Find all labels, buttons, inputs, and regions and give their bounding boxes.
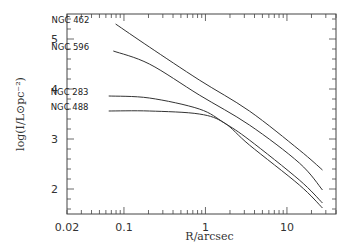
- series-label-ngc-596: NGC 596: [51, 42, 89, 52]
- x-tick-label: 0.02: [55, 221, 80, 234]
- series-label-ngc-462: NGC 462: [52, 15, 90, 25]
- chart-canvas: 0.020.11102345R/arcseclog(I/L⊙pc⁻²)NGC 4…: [0, 0, 352, 249]
- series-line-ngc-596: [113, 51, 322, 190]
- series-line-ngc-488: [109, 111, 323, 208]
- series-line-ngc-462: [116, 24, 323, 170]
- series-line-ngc-283: [109, 96, 323, 203]
- x-axis-label: R/arcsec: [185, 230, 233, 243]
- y-tick-label: 2: [51, 183, 58, 196]
- x-tick-label: 10: [280, 221, 294, 234]
- series-label-ngc-488: NGC 488: [51, 102, 89, 112]
- y-axis-label: log(I/L⊙pc⁻²): [14, 77, 27, 151]
- x-tick-label: 0.1: [115, 221, 133, 234]
- series-label-ngc-283: NGC 283: [51, 87, 89, 97]
- y-tick-label: 3: [51, 133, 58, 146]
